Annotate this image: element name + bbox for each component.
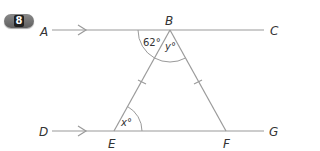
angle-label-ebf: y° <box>165 42 176 52</box>
label-point-g: G <box>269 126 278 138</box>
label-point-d: D <box>39 126 48 138</box>
angle-label-bef: x° <box>121 118 132 128</box>
angle-arc-ebf <box>155 58 186 62</box>
label-point-c: C <box>270 25 278 37</box>
label-point-e: E <box>108 138 116 150</box>
label-point-a: A <box>40 26 48 38</box>
angle-label-abe: 62° <box>143 38 161 48</box>
label-point-f: F <box>223 138 230 150</box>
segment-bf <box>170 30 226 131</box>
label-point-b: B <box>165 15 173 27</box>
